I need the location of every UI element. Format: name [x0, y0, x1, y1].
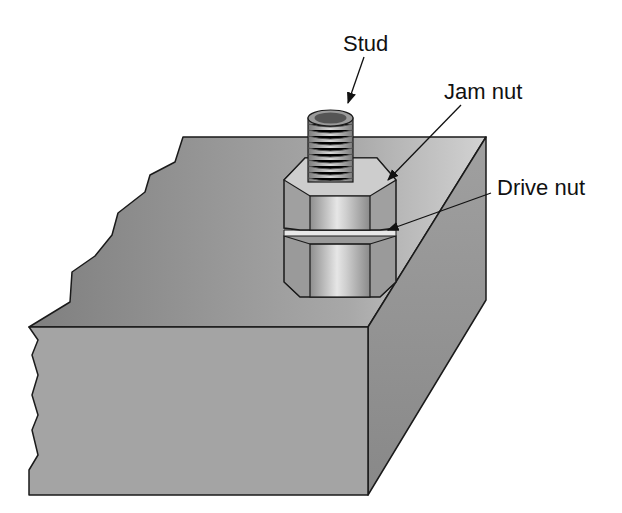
nut-gap	[284, 230, 396, 236]
label-stud: Stud	[343, 31, 388, 56]
label-drive-nut: Drive nut	[497, 175, 585, 200]
stud-leader-arrow	[348, 57, 364, 103]
stud-nut-diagram: Stud Jam nut Drive nut	[0, 0, 622, 513]
stud	[308, 110, 353, 182]
label-jam-nut: Jam nut	[444, 79, 522, 104]
block	[29, 137, 486, 495]
block-front-face	[29, 327, 368, 495]
